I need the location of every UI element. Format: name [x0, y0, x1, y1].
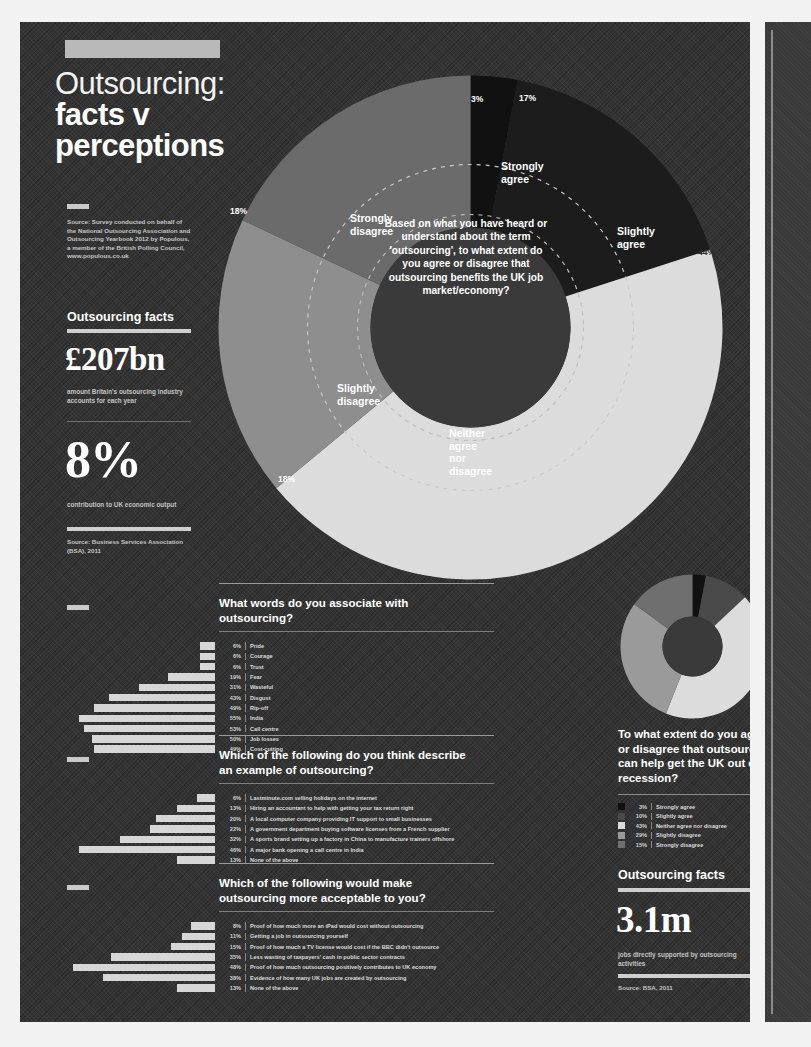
- bar-separator: [245, 984, 246, 991]
- bar-value: 11%: [215, 933, 245, 939]
- bar-track: [67, 836, 215, 843]
- legend-separator: [651, 813, 652, 820]
- bar-track: [67, 815, 215, 822]
- bar-row: 13%Hiring an accountant to help with get…: [67, 803, 497, 813]
- bar-value: 53%: [215, 726, 245, 732]
- bar: [109, 694, 215, 701]
- bar: [111, 953, 215, 960]
- legend-swatch: [618, 822, 625, 829]
- section-title-words: What words do you associate with outsour…: [219, 595, 479, 625]
- bar: [139, 684, 215, 691]
- bar-label: Lastminute.com selling holidays on the i…: [250, 795, 377, 801]
- bar-row: 38%Evidence of how many UK jobs are crea…: [67, 972, 497, 982]
- header-accent-bar: [65, 40, 220, 58]
- bar-row: 13%None of the above: [67, 983, 497, 993]
- donut-pct-slightly-disagree: 18%: [278, 474, 295, 484]
- bar-separator: [245, 673, 246, 680]
- bar-value: 38%: [215, 975, 245, 981]
- legend-swatch: [618, 813, 625, 820]
- bar-separator: [245, 794, 246, 801]
- bar: [168, 673, 215, 680]
- donut-label-neither: Neitheragreenordisagree: [449, 427, 519, 477]
- bar-label: Less wasting of taxpayers' cash in publi…: [250, 954, 405, 960]
- legend-value: 29%: [629, 832, 651, 838]
- bar-label: Rip-off: [250, 705, 268, 711]
- legend-row: 15%Strongly disagree: [618, 840, 750, 850]
- bar-row: 6%Pride: [67, 641, 497, 651]
- bar: [73, 964, 215, 971]
- bar: [84, 725, 215, 732]
- bar-separator: [245, 704, 246, 711]
- bar-separator: [245, 846, 246, 853]
- bar-value: 31%: [215, 684, 245, 690]
- bar-label: A local computer company providing IT su…: [250, 816, 432, 822]
- bar-track: [67, 805, 215, 812]
- bar: [94, 745, 215, 752]
- bar-value: 46%: [215, 847, 245, 853]
- adjacent-page-sliver: [765, 22, 811, 1022]
- bar-label: Proof of how much a TV license would cos…: [250, 944, 439, 950]
- bar-value: 15%: [215, 944, 245, 950]
- donut-label-slightly-disagree: Slightlydisagree: [337, 382, 397, 407]
- bar: [177, 805, 215, 812]
- legend-value: 15%: [629, 842, 651, 848]
- outsourcing-facts-heading-right: Outsourcing facts: [618, 868, 725, 882]
- legend-swatch: [618, 832, 625, 839]
- donut-pct-strongly-agree: 3%: [471, 94, 483, 104]
- bar-row: 6%Lastminute.com selling holidays on the…: [67, 793, 497, 803]
- bar-track: [67, 922, 215, 929]
- legend-label: Slightly disagree: [656, 832, 701, 838]
- bar-row: 43%Disgust: [67, 692, 497, 702]
- bar-rows-examples: 6%Lastminute.com selling holidays on the…: [67, 793, 497, 865]
- bar-row: 32%A sports brand setting up a factory i…: [67, 834, 497, 844]
- legend-value: 3%: [629, 804, 651, 810]
- bar-separator: [245, 684, 246, 691]
- bar-value: 49%: [215, 705, 245, 711]
- legend-separator: [651, 822, 652, 829]
- bar-label: Call centre: [250, 726, 279, 732]
- bar-separator: [245, 922, 246, 929]
- bar-value: 35%: [215, 954, 245, 960]
- bar-track: [67, 794, 215, 801]
- recession-donut-hole: [663, 617, 723, 677]
- legend-swatch: [618, 841, 625, 848]
- donut-pct-slightly-agree: 17%: [519, 93, 536, 103]
- bar-value: 50%: [215, 736, 245, 742]
- facts-rule-left: [67, 329, 191, 333]
- bar-value: 20%: [215, 816, 245, 822]
- stat-8pct: 8%: [65, 432, 141, 488]
- section-dash-words: [67, 605, 89, 610]
- infographic-page: Outsourcing: facts v perceptions Source:…: [0, 0, 811, 1047]
- section-topline-acceptable: [219, 863, 494, 864]
- bar-track: [67, 974, 215, 981]
- bar: [200, 653, 215, 660]
- donut-center-question: Based on what you have heard or understa…: [381, 217, 551, 297]
- bar-separator: [245, 815, 246, 822]
- bar-row: 35%Less wasting of taxpayers' cash in pu…: [67, 952, 497, 962]
- legend-label: Strongly disagree: [656, 842, 703, 848]
- section-title-acceptable: Which of the following would make outsou…: [219, 875, 479, 905]
- bar-track: [67, 725, 215, 732]
- legend-row: 3%Strongly agree: [618, 802, 750, 812]
- bar-row: 55%India: [67, 713, 497, 723]
- bar-value: 55%: [215, 715, 245, 721]
- recession-question: To what extent do you agree or disagree …: [618, 727, 750, 785]
- bar: [200, 663, 215, 670]
- bar-row: 49%Rip-off: [67, 703, 497, 713]
- legend-separator: [651, 803, 652, 810]
- bar-track: [67, 684, 215, 691]
- bar-label: A government department buying software …: [250, 826, 450, 832]
- bar-value: 32%: [215, 836, 245, 842]
- bar-label: Wasteful: [250, 684, 273, 690]
- legend-value: 43%: [629, 823, 651, 829]
- donut-label-slightly-agree: Slightlyagree: [617, 225, 677, 250]
- bar-rows-words: 6%Pride6%Courage6%Trust19%Fear31%Wastefu…: [67, 641, 497, 754]
- bar-track: [67, 825, 215, 832]
- recession-legend: 3%Strongly agree10%Slightly agree43%Neit…: [618, 802, 750, 850]
- bar-track: [67, 943, 215, 950]
- bsa-source-note-left: Source: Business Services Association (B…: [67, 538, 191, 555]
- donut-pct-neither: 44%: [698, 247, 715, 257]
- bar: [92, 735, 215, 742]
- survey-source-note: Source: Survey conducted on behalf of th…: [67, 218, 192, 261]
- stat-207bn: £207bn: [65, 340, 165, 378]
